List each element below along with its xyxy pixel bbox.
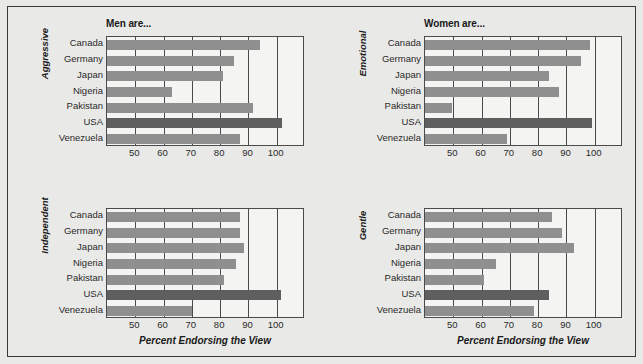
x-axis-tick-label: 60 bbox=[157, 319, 168, 330]
bar-nigeria bbox=[425, 87, 559, 97]
category-tick-labels: CanadaGermanyJapanNigeriaPakistanUSAVene… bbox=[346, 208, 421, 318]
bar-venezuela bbox=[107, 306, 192, 316]
category-tick-label: Venezuela bbox=[377, 305, 421, 315]
bar-nigeria bbox=[425, 259, 496, 269]
bar-nigeria bbox=[107, 259, 236, 269]
panel-title: Women are... bbox=[424, 18, 485, 29]
category-tick-label: Nigeria bbox=[391, 258, 421, 268]
bar-pakistan bbox=[107, 275, 224, 285]
category-tick-label: Canada bbox=[70, 38, 103, 48]
gridline bbox=[510, 209, 511, 317]
x-axis-tick-label: 70 bbox=[186, 319, 197, 330]
gridline bbox=[248, 209, 249, 317]
x-axis-tick-label: 50 bbox=[447, 319, 458, 330]
x-axis-tick-label: 80 bbox=[214, 147, 225, 158]
category-tick-label: USA bbox=[83, 289, 103, 299]
gridline bbox=[277, 37, 278, 145]
x-axis-tick-label: 50 bbox=[129, 319, 140, 330]
category-tick-label: Germany bbox=[382, 54, 421, 64]
category-tick-label: Germany bbox=[382, 226, 421, 236]
x-axis-tick-label: 90 bbox=[560, 319, 571, 330]
bar-canada bbox=[425, 212, 552, 222]
plot-area bbox=[106, 208, 304, 318]
gridline bbox=[538, 209, 539, 317]
x-axis-tick-label: 60 bbox=[157, 147, 168, 158]
bar-germany bbox=[107, 228, 240, 238]
x-axis-tick-label: 60 bbox=[475, 319, 486, 330]
x-axis-tick-label: 100 bbox=[586, 319, 602, 330]
x-axis-tick-labels: 5060708090100 bbox=[106, 147, 304, 161]
bar-japan bbox=[107, 243, 244, 253]
x-axis-tick-label: 90 bbox=[560, 147, 571, 158]
category-tick-label: Canada bbox=[388, 210, 421, 220]
gridline bbox=[220, 37, 221, 145]
bar-japan bbox=[425, 71, 549, 81]
x-axis-tick-label: 80 bbox=[214, 319, 225, 330]
category-tick-label: USA bbox=[401, 289, 421, 299]
category-tick-label: Venezuela bbox=[377, 133, 421, 143]
bar-canada bbox=[107, 40, 260, 50]
bar-pakistan bbox=[107, 103, 253, 113]
panel-title: Men are... bbox=[106, 18, 151, 29]
gridline bbox=[277, 209, 278, 317]
bar-germany bbox=[425, 228, 562, 238]
x-axis-tick-label: 90 bbox=[242, 147, 253, 158]
x-axis-tick-label: 70 bbox=[186, 147, 197, 158]
bar-usa bbox=[107, 118, 282, 128]
gridline bbox=[566, 37, 567, 145]
gridline bbox=[566, 209, 567, 317]
x-axis-tick-label: 70 bbox=[504, 147, 515, 158]
x-axis-tick-label: 80 bbox=[532, 319, 543, 330]
panel-grid: Men are...AggressiveCanadaGermanyJapanNi… bbox=[0, 0, 643, 364]
x-axis-tick-label: 50 bbox=[447, 147, 458, 158]
gridline bbox=[595, 37, 596, 145]
gridline bbox=[192, 37, 193, 145]
category-tick-label: Japan bbox=[395, 242, 421, 252]
x-axis-tick-labels: 5060708090100 bbox=[424, 319, 622, 333]
bar-usa bbox=[107, 290, 281, 300]
x-axis-tick-label: 80 bbox=[532, 147, 543, 158]
category-tick-label: Venezuela bbox=[59, 305, 103, 315]
x-axis-tick-label: 100 bbox=[586, 147, 602, 158]
category-tick-label: Nigeria bbox=[73, 258, 103, 268]
category-tick-label: Germany bbox=[64, 226, 103, 236]
figure-canvas: Men are...AggressiveCanadaGermanyJapanNi… bbox=[0, 0, 643, 364]
category-tick-label: Pakistan bbox=[385, 273, 421, 283]
x-axis-tick-label: 100 bbox=[268, 147, 284, 158]
bar-venezuela bbox=[425, 134, 507, 144]
x-axis-tick-label: 50 bbox=[129, 147, 140, 158]
category-tick-label: Pakistan bbox=[67, 101, 103, 111]
category-tick-label: Japan bbox=[395, 70, 421, 80]
category-tick-label: Venezuela bbox=[59, 133, 103, 143]
x-axis-tick-label: 60 bbox=[475, 147, 486, 158]
bar-japan bbox=[425, 243, 574, 253]
plot-area bbox=[424, 36, 622, 146]
gridline bbox=[248, 37, 249, 145]
bar-pakistan bbox=[425, 275, 484, 285]
category-tick-labels: CanadaGermanyJapanNigeriaPakistanUSAVene… bbox=[28, 36, 103, 146]
category-tick-label: Japan bbox=[77, 70, 103, 80]
bar-usa bbox=[425, 290, 549, 300]
x-axis-tick-labels: 5060708090100 bbox=[106, 319, 304, 333]
plot-area bbox=[106, 36, 304, 146]
category-tick-labels: CanadaGermanyJapanNigeriaPakistanUSAVene… bbox=[346, 36, 421, 146]
bar-canada bbox=[107, 212, 240, 222]
category-tick-labels: CanadaGermanyJapanNigeriaPakistanUSAVene… bbox=[28, 208, 103, 318]
x-axis-label: Percent Endorsing the View bbox=[106, 335, 304, 346]
x-axis-label: Percent Endorsing the View bbox=[424, 335, 622, 346]
category-tick-label: Nigeria bbox=[73, 86, 103, 96]
category-tick-label: Japan bbox=[77, 242, 103, 252]
category-tick-label: USA bbox=[83, 117, 103, 127]
x-axis-tick-label: 90 bbox=[242, 319, 253, 330]
bar-usa bbox=[425, 118, 592, 128]
bar-japan bbox=[107, 71, 223, 81]
x-axis-tick-label: 100 bbox=[268, 319, 284, 330]
category-tick-label: Canada bbox=[70, 210, 103, 220]
category-tick-label: Nigeria bbox=[391, 86, 421, 96]
bar-canada bbox=[425, 40, 590, 50]
x-axis-tick-label: 70 bbox=[504, 319, 515, 330]
category-tick-label: Germany bbox=[64, 54, 103, 64]
category-tick-label: Pakistan bbox=[385, 101, 421, 111]
category-tick-label: Canada bbox=[388, 38, 421, 48]
bar-germany bbox=[425, 56, 581, 66]
